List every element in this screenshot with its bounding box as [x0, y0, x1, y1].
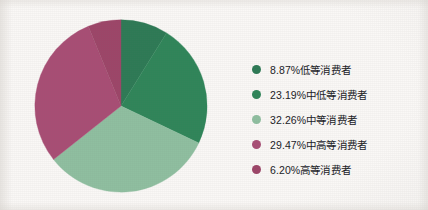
- legend-item-label: 23.19%中低等消费者: [270, 89, 367, 101]
- pie-svg: [34, 16, 208, 196]
- legend-item-label: 6.20%高等消费者: [270, 164, 351, 176]
- legend-item-label: 32.26%中等消费者: [270, 114, 357, 126]
- pie-plot-area: [0, 0, 232, 210]
- legend-item-label: 29.47%中高等消费者: [270, 139, 367, 151]
- legend-item[interactable]: 8.87%低等消费者: [252, 57, 428, 82]
- pie-slice-group: [35, 20, 207, 192]
- legend-swatch-icon: [252, 140, 261, 149]
- pie-chart-figure: 8.87%低等消费者 23.19%中低等消费者 32.26%中等消费者 29.4…: [0, 0, 428, 210]
- legend-swatch-icon: [252, 115, 261, 124]
- legend-item-label: 8.87%低等消费者: [270, 64, 351, 76]
- legend-swatch-icon: [252, 65, 261, 74]
- legend-item[interactable]: 6.20%高等消费者: [252, 157, 428, 182]
- chart-legend: 8.87%低等消费者 23.19%中低等消费者 32.26%中等消费者 29.4…: [252, 57, 428, 203]
- legend-swatch-icon: [252, 165, 261, 174]
- legend-swatch-icon: [252, 90, 261, 99]
- legend-item[interactable]: 23.19%中低等消费者: [252, 82, 428, 107]
- legend-item[interactable]: 32.26%中等消费者: [252, 107, 428, 132]
- legend-item[interactable]: 29.47%中高等消费者: [252, 132, 428, 157]
